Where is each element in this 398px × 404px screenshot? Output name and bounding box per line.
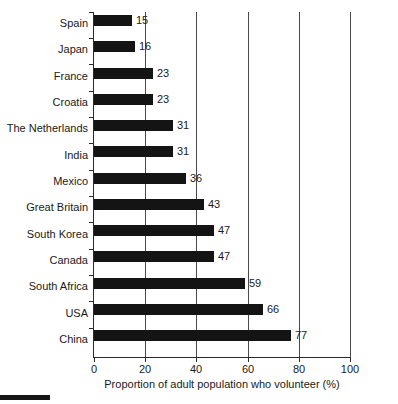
bar-row[interactable]: 77 <box>94 330 354 341</box>
category-label-south-africa: South Africa <box>0 280 88 292</box>
y-tick <box>89 249 94 250</box>
bar-row[interactable]: 23 <box>94 94 354 105</box>
bar-great-britain[interactable] <box>94 199 204 210</box>
x-tick-label: 40 <box>176 363 216 375</box>
bar-row[interactable]: 66 <box>94 304 354 315</box>
y-tick <box>89 64 94 65</box>
x-tick-label: 100 <box>330 363 370 375</box>
bar-row[interactable]: 36 <box>94 173 354 184</box>
bar-japan[interactable] <box>94 41 135 52</box>
y-tick <box>89 301 94 302</box>
x-tick-label: 80 <box>279 363 319 375</box>
bar-india[interactable] <box>94 146 173 157</box>
x-tick <box>145 357 146 362</box>
x-tick <box>94 357 95 362</box>
bar-south-korea[interactable] <box>94 225 214 236</box>
bar-canada[interactable] <box>94 251 214 262</box>
category-label-south-korea: South Korea <box>0 228 88 240</box>
category-label-japan: Japan <box>0 43 88 55</box>
category-label-mexico: Mexico <box>0 175 88 187</box>
bar-the-netherlands[interactable] <box>94 120 173 131</box>
x-tick <box>299 357 300 362</box>
x-tick <box>248 357 249 362</box>
bar-row[interactable]: 31 <box>94 120 354 131</box>
bar-row[interactable]: 31 <box>94 146 354 157</box>
bar-value-label: 23 <box>157 66 169 80</box>
bar-mexico[interactable] <box>94 173 186 184</box>
category-label-china: China <box>0 333 88 345</box>
x-tick <box>350 357 351 362</box>
bar-row[interactable]: 16 <box>94 41 354 52</box>
bar-value-label: 47 <box>218 249 230 263</box>
category-label-france: France <box>0 70 88 82</box>
x-axis-title: Proportion of adult population who volun… <box>94 378 350 391</box>
bar-row[interactable]: 47 <box>94 225 354 236</box>
category-label-usa: USA <box>0 307 88 319</box>
y-tick <box>89 328 94 329</box>
category-label-the-netherlands: The Netherlands <box>0 122 88 134</box>
bar-value-label: 16 <box>139 39 151 53</box>
bar-south-africa[interactable] <box>94 278 245 289</box>
y-tick <box>89 222 94 223</box>
y-tick <box>89 91 94 92</box>
bar-row[interactable]: 15 <box>94 15 354 26</box>
x-tick-label: 60 <box>228 363 268 375</box>
category-label-great-britain: Great Britain <box>0 201 88 213</box>
bar-usa[interactable] <box>94 304 263 315</box>
bar-value-label: 36 <box>190 171 202 185</box>
bar-value-label: 15 <box>136 13 148 27</box>
bar-value-label: 47 <box>218 223 230 237</box>
x-tick <box>196 357 197 362</box>
bar-spain[interactable] <box>94 15 132 26</box>
y-tick <box>89 143 94 144</box>
bar-row[interactable]: 59 <box>94 278 354 289</box>
x-tick-label: 0 <box>74 363 114 375</box>
bar-value-label: 31 <box>177 144 189 158</box>
category-label-spain: Spain <box>0 17 88 29</box>
bar-france[interactable] <box>94 68 153 79</box>
bar-value-label: 66 <box>267 302 279 316</box>
bar-value-label: 43 <box>208 197 220 211</box>
y-tick <box>89 196 94 197</box>
x-axis-line <box>93 357 351 358</box>
bar-value-label: 23 <box>157 92 169 106</box>
bar-croatia[interactable] <box>94 94 153 105</box>
bar-china[interactable] <box>94 330 291 341</box>
bar-row[interactable]: 47 <box>94 251 354 262</box>
page-edge-artifact <box>0 395 50 400</box>
y-tick <box>89 170 94 171</box>
category-label-croatia: Croatia <box>0 96 88 108</box>
bar-row[interactable]: 43 <box>94 199 354 210</box>
x-tick-label: 20 <box>125 363 165 375</box>
bar-row[interactable]: 23 <box>94 68 354 79</box>
y-tick <box>89 12 94 13</box>
y-tick <box>89 275 94 276</box>
bar-value-label: 59 <box>249 276 261 290</box>
y-tick <box>89 38 94 39</box>
bar-value-label: 31 <box>177 118 189 132</box>
y-tick <box>89 117 94 118</box>
category-label-canada: Canada <box>0 254 88 266</box>
category-label-india: India <box>0 149 88 161</box>
bar-chart-figure: 0 20 40 60 80 100 Spain Japan France Cro… <box>0 0 398 404</box>
bar-value-label: 77 <box>295 328 307 342</box>
